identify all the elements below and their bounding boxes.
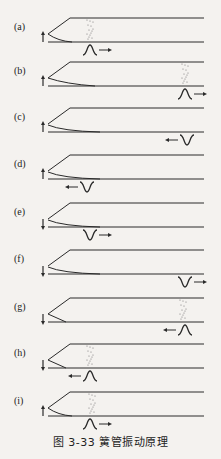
panel-label: (c) [14, 111, 25, 123]
panel-d: (d) [14, 155, 204, 192]
figure-caption: 图 3-33 簧管振动原理 [0, 433, 221, 449]
panel-h: (h) [14, 344, 204, 381]
arrow-right-icon [203, 280, 207, 284]
arrow-down-icon [41, 273, 45, 277]
pipe-top-wall [48, 250, 204, 266]
panel-label: (g) [14, 301, 26, 313]
arrow-right-icon [203, 92, 207, 96]
arrow-up-icon [41, 31, 45, 35]
panel-a: (a) [14, 18, 204, 55]
pressure-trough-pulse [178, 277, 192, 287]
arrow-down-icon [41, 321, 45, 325]
arrow-left-icon [65, 185, 69, 189]
panel-i: (i) [14, 392, 204, 429]
reed [48, 267, 100, 274]
reed [48, 34, 72, 42]
panel-label: (h) [14, 347, 26, 359]
panel-label: (d) [14, 158, 26, 170]
panel-label: (b) [14, 65, 26, 77]
panel-label: (i) [14, 395, 23, 407]
pipe-top-wall [48, 62, 204, 78]
reed-pipe-vibration-diagram: (a)(b)(c)(d)(e)(f)(g)(h)(i) [0, 0, 221, 430]
arrow-left-icon [163, 328, 167, 332]
pipe-top-wall [48, 298, 204, 314]
panel-f: (f) [14, 250, 207, 287]
pressure-trough-pulse [180, 135, 194, 145]
pipe-top-wall [48, 18, 204, 34]
reed [48, 220, 100, 227]
pressure-trough-pulse [80, 182, 94, 192]
arrow-down-icon [41, 367, 45, 371]
panel-e: (e) [14, 203, 204, 240]
arrow-right-icon [108, 233, 112, 237]
panel-label: (f) [14, 253, 24, 265]
arrow-right-icon [108, 48, 112, 52]
arrow-left-icon [68, 374, 72, 378]
reed [48, 314, 66, 322]
reed [48, 408, 72, 416]
pressure-trough-pulse [83, 230, 97, 240]
compression-dots [86, 19, 93, 39]
compression-dots [86, 345, 93, 365]
pressure-crest-pulse [83, 45, 97, 55]
compression-dots [88, 393, 95, 413]
pressure-crest-pulse [83, 419, 97, 429]
reed [48, 360, 66, 368]
reed [48, 78, 95, 86]
arrow-left-icon [165, 138, 169, 142]
arrow-up-icon [41, 405, 45, 409]
pipe-top-wall [48, 344, 204, 360]
panel-g: (g) [14, 298, 204, 335]
pipe-top-wall [48, 392, 204, 408]
arrow-down-icon [41, 226, 45, 230]
pipe-top-wall [48, 155, 204, 171]
pressure-crest-pulse [83, 371, 97, 381]
panel-label: (e) [14, 206, 25, 218]
arrow-up-icon [41, 168, 45, 172]
arrow-right-icon [108, 422, 112, 426]
compression-dots [179, 299, 186, 319]
panel-c: (c) [14, 108, 204, 145]
reed [48, 125, 100, 132]
pressure-crest-pulse [178, 89, 192, 99]
panel-label: (a) [14, 21, 25, 33]
pipe-top-wall [48, 108, 204, 124]
arrow-up-icon [41, 75, 45, 79]
panel-b: (b) [14, 62, 207, 99]
compression-dots [181, 63, 188, 83]
arrow-up-icon [41, 121, 45, 125]
pipe-top-wall [48, 203, 204, 219]
pressure-crest-pulse [178, 325, 192, 335]
reed [48, 172, 100, 179]
